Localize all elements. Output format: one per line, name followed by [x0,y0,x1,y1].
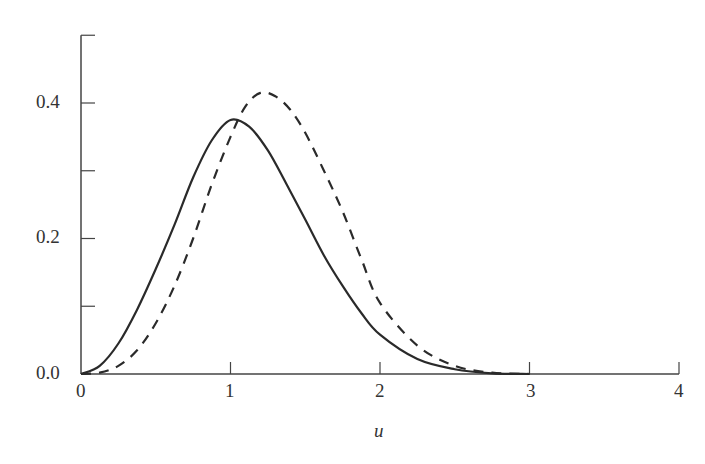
y-tick-label-0: 0.0 [36,362,60,384]
x-tick-label-4: 4 [674,380,684,402]
x-tick-label-0: 0 [76,380,86,402]
y-tick-label-0.4: 0.4 [36,91,60,113]
x-axis-label: u [374,420,384,442]
series-dashed-line [81,92,530,374]
x-tick-label-3: 3 [526,380,536,402]
y-tick-label-0.2: 0.2 [36,226,60,248]
plot-area [0,0,705,464]
x-tick-label-2: 2 [375,380,385,402]
x-tick-label-1: 1 [225,380,235,402]
